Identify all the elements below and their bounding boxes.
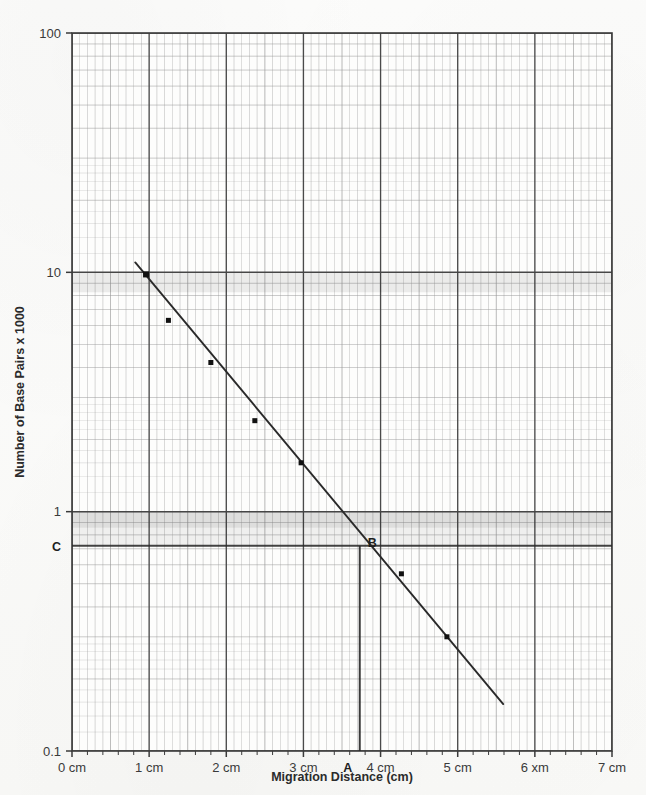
y-tick-label: 100 (39, 26, 61, 41)
x-tick-label: 0 cm (58, 760, 86, 775)
y-tick-label: 0.1 (43, 744, 61, 759)
x-axis-ticks (72, 751, 612, 757)
annotation-label-b: B (368, 536, 377, 550)
x-tick-label: 5 cm (444, 760, 472, 775)
y-axis-tick-labels: 1001010.1 (39, 26, 61, 759)
annotation-label-c: C (52, 540, 61, 554)
x-axis-title: Migration Distance (cm) (271, 770, 413, 784)
x-tick-label: 6 xm (521, 760, 549, 775)
chart-canvas: 1001010.1 0 cm1 cm2 cm3 cm4 cm5 cm6 xm7 … (0, 0, 646, 795)
x-tick-label: 1 cm (135, 760, 163, 775)
x-tick-label: 7 cm (598, 760, 626, 775)
semilog-chart: 1001010.1 0 cm1 cm2 cm3 cm4 cm5 cm6 xm7 … (0, 0, 646, 795)
x-tick-label: 2 cm (212, 760, 240, 775)
y-tick-label: 1 (54, 504, 61, 519)
y-axis-ticks (66, 33, 72, 751)
y-tick-label: 10 (47, 265, 61, 280)
y-axis-title: Number of Base Pairs x 1000 (13, 306, 27, 478)
